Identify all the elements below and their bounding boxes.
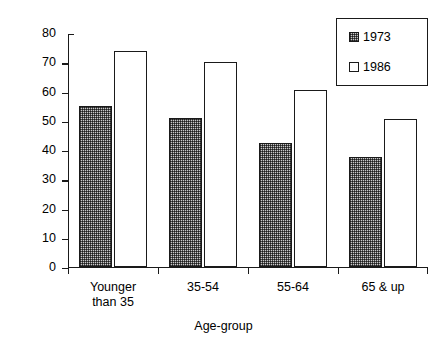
x-axis-title: Age-group <box>0 319 447 333</box>
bar-1973-1 <box>169 118 202 267</box>
y-axis-tick <box>62 239 68 240</box>
x-axis-category-label: 55-64 <box>243 280 343 295</box>
x-axis-tick <box>248 268 249 274</box>
y-axis-line <box>68 34 69 268</box>
bar-1986-1 <box>204 62 237 267</box>
y-axis-tick-label: 40 <box>16 143 56 157</box>
bar-1973-0 <box>79 106 112 267</box>
x-axis-tick <box>338 268 339 274</box>
x-axis-tick <box>158 268 159 274</box>
y-axis-tick <box>62 180 68 181</box>
bar-1986-3 <box>384 119 417 267</box>
chart-legend: 1973 1986 <box>336 18 428 86</box>
y-axis-tick-label: 60 <box>16 85 56 99</box>
x-axis-category-label: 35-54 <box>153 280 253 295</box>
y-axis-tick-label: 80 <box>16 26 56 40</box>
bar-1986-0 <box>114 51 147 267</box>
bar-1973-3 <box>349 157 382 267</box>
y-axis-tick-label: 50 <box>16 114 56 128</box>
hatched-square-icon <box>349 32 359 42</box>
y-axis-tick <box>68 34 74 35</box>
legend-label: 1973 <box>363 30 391 44</box>
y-axis-tick-label: 0 <box>16 260 56 274</box>
y-axis-tick <box>62 93 68 94</box>
legend-entry-1986: 1986 <box>349 60 427 74</box>
x-axis-tick <box>68 268 69 274</box>
y-axis-tick-label: 10 <box>16 231 56 245</box>
x-axis-category-label: 65 & up <box>333 280 433 295</box>
bar-1986-2 <box>294 90 327 267</box>
y-axis-tick-label: 70 <box>16 55 56 69</box>
legend-label: 1986 <box>363 60 391 74</box>
y-axis-tick <box>62 210 68 211</box>
legend-entry-1973: 1973 <box>349 30 427 44</box>
x-axis-tick <box>427 268 428 274</box>
bar-1973-2 <box>259 143 292 267</box>
y-axis-tick <box>62 151 68 152</box>
y-axis-tick-label: 30 <box>16 172 56 186</box>
y-axis-tick <box>62 122 68 123</box>
y-axis-tick <box>62 63 68 64</box>
bar-chart: Percent 80706050403020100 Younger than 3… <box>0 0 447 347</box>
y-axis-tick-label: 20 <box>16 202 56 216</box>
empty-square-icon <box>349 62 359 72</box>
x-axis-category-label: Younger than 35 <box>63 280 163 310</box>
